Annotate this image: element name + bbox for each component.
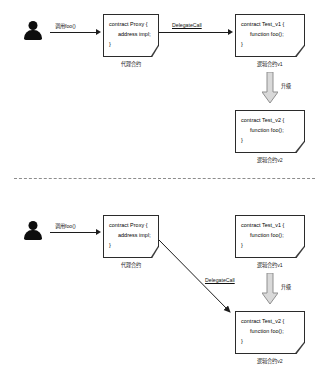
logic-v2-code: contract Test_v2 { function foo(); } [236,111,304,152]
diagram-canvas: 调用foo() contract Proxy { address impl; }… [0,0,328,380]
logic-v2-code-line-1: contract Test_v2 { [241,316,300,326]
logic-v1-code-line-2: function foo(); [241,29,300,39]
actor-body [24,230,42,240]
logic-v2-box-caption: 逻辑合约v2 [235,156,305,163]
user-actor-icon [22,21,44,40]
proxy-code-line-1: contract Proxy { [109,19,154,29]
proxy-box-caption: 代理合约 [103,261,159,268]
logic-v2-code-line-1: contract Test_v2 { [241,115,300,125]
upgrade-block-arrow-icon [262,72,278,104]
logic-v1-code-line-1: contract Test_v1 { [241,220,300,230]
logic-v1-code-line-1: contract Test_v1 { [241,19,300,29]
delegatecall-arrow-label: DelegateCall [205,277,235,283]
call-arrow-line [50,232,97,233]
logic-v2-code-line-3: } [241,135,300,145]
proxy-code-line-2: address impl; [109,29,154,39]
logic-v1-contract-box: contract Test_v1 { function foo(); } [235,14,305,57]
proxy-contract-box: contract Proxy { address impl; } [103,215,159,258]
logic-v1-code-line-3: } [241,39,300,49]
logic-v2-contract-box: contract Test_v2 { function foo(); } [235,110,305,153]
logic-v1-code-line-2: function foo(); [241,230,300,240]
logic-v2-contract-box: contract Test_v2 { function foo(); } [235,311,305,354]
logic-v1-code: contract Test_v1 { function foo(); } [236,216,304,257]
logic-v2-box-caption: 逻辑合约v2 [235,357,305,364]
proxy-code-line-1: contract Proxy { [109,220,154,230]
logic-v2-code-line-2: function foo(); [241,326,300,336]
logic-v1-code: contract Test_v1 { function foo(); } [236,15,304,56]
proxy-box-caption: 代理合约 [103,60,159,67]
call-arrow-head [96,29,101,35]
logic-v1-box-caption: 逻辑合约v1 [235,261,305,268]
call-arrow-head [96,229,101,235]
proxy-code: contract Proxy { address impl; } [104,216,158,257]
actor-head [29,221,38,230]
logic-v2-code-line-3: } [241,336,300,346]
logic-v2-code-line-2: function foo(); [241,125,300,135]
logic-v2-code: contract Test_v2 { function foo(); } [236,312,304,353]
call-arrow-line [50,32,97,33]
user-actor-icon [22,221,44,240]
actor-body [24,30,42,40]
upgrade-block-arrow-icon [262,273,278,305]
delegatecall-arrow-label: DelegateCall [172,22,202,28]
call-arrow-label: 调用foo() [55,22,76,29]
proxy-code-line-3: } [109,240,154,250]
upgrade-arrow-label: 升级 [281,82,291,89]
proxy-contract-box: contract Proxy { address impl; } [103,14,159,57]
call-arrow-label: 调用foo() [55,222,76,229]
logic-v1-box-caption: 逻辑合约v1 [235,60,305,67]
proxy-code: contract Proxy { address impl; } [104,15,158,56]
panel-after-upgrade: 调用foo() contract Proxy { address impl; }… [0,190,328,380]
proxy-code-line-3: } [109,39,154,49]
delegatecall-arrow-line [159,32,229,33]
panel-divider [14,178,315,179]
upgrade-arrow-label: 升级 [281,283,291,290]
proxy-code-line-2: address impl; [109,230,154,240]
actor-head [29,21,38,30]
logic-v1-code-line-3: } [241,240,300,250]
logic-v1-contract-box: contract Test_v1 { function foo(); } [235,215,305,258]
delegatecall-arrow-head [228,29,233,35]
panel-before-upgrade: 调用foo() contract Proxy { address impl; }… [0,0,328,178]
